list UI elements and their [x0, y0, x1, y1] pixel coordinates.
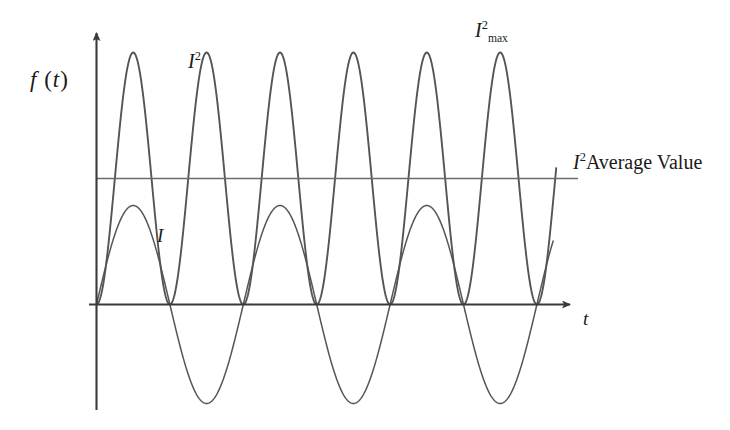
curve-label-i-squared-exponent: 2	[195, 49, 201, 63]
curve-label-i: I	[157, 226, 163, 245]
curve-label-i-squared-max-base: I	[475, 19, 482, 41]
figure-canvas: f (t) I2 I2max I2Average Value I t	[0, 0, 730, 430]
average-value-label: I2Average Value	[573, 152, 702, 172]
x-axis-label: t	[583, 309, 588, 328]
y-axis-label-paren-close: )	[60, 67, 69, 92]
curve-label-i-squared-max: I2max	[475, 20, 508, 40]
average-value-label-base: I	[573, 151, 580, 173]
curve-label-i-squared: I2	[188, 51, 201, 71]
average-value-label-text: Average Value	[586, 151, 702, 173]
curve-label-i-squared-base: I	[188, 50, 195, 72]
curve-label-i-squared-max-subscript: max	[488, 32, 508, 45]
y-axis-label: f (t)	[30, 68, 69, 91]
y-axis-label-paren-open: (	[37, 67, 52, 92]
curve-label-i-squared-max-exponent: 2	[482, 18, 488, 32]
waveform-plot	[0, 0, 730, 430]
